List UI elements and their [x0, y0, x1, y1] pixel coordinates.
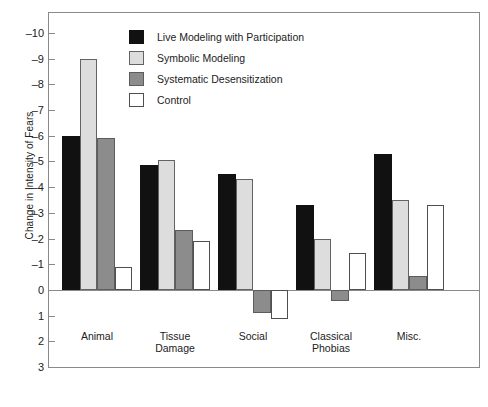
y-tick-mark [48, 316, 55, 317]
medium-gray-swatch-icon [129, 72, 144, 86]
y-tick-label: 0 [10, 284, 44, 296]
bar-classical-phobias-series-3 [349, 253, 367, 290]
legend-item-label: Systematic Desensitization [157, 73, 282, 85]
bar-misc-series-3 [427, 205, 445, 290]
bar-tissue-damage-series-1 [158, 160, 176, 290]
y-tick-label: 1 [10, 310, 44, 322]
bar-tissue-damage-series-0 [140, 165, 158, 290]
y-tick-mark [48, 239, 55, 240]
y-tick-mark [48, 264, 55, 265]
x-axis-category-label: Misc. [397, 330, 422, 343]
y-tick-label: –4 [10, 181, 44, 193]
y-tick-label: 3 [10, 361, 44, 373]
bar-social-series-0 [218, 174, 236, 290]
bar-social-series-1 [236, 179, 254, 289]
light-gray-swatch-icon [129, 51, 144, 65]
y-tick-mark [48, 33, 55, 34]
y-tick-label: –7 [10, 104, 44, 116]
legend-item: Control [129, 89, 304, 110]
x-axis-category-label: Animal [81, 330, 113, 343]
bar-tissue-damage-series-3 [193, 241, 211, 290]
y-tick-mark [48, 213, 55, 214]
legend-item: Systematic Desensitization [129, 68, 304, 89]
x-axis-category-label: Tissue Damage [155, 330, 195, 355]
y-tick-label: –3 [10, 207, 44, 219]
bar-classical-phobias-series-0 [296, 205, 314, 290]
y-tick-mark [48, 161, 55, 162]
bar-animal-series-1 [80, 59, 98, 290]
bar-misc-series-1 [392, 200, 410, 290]
x-axis-category-label: Classical Phobias [310, 330, 352, 355]
bar-chart-figure: Change in Intensity of Fears –10–9–8–7–6… [0, 0, 488, 407]
bar-classical-phobias-series-1 [314, 239, 332, 290]
y-tick-label: –8 [10, 78, 44, 90]
bar-animal-series-0 [62, 136, 80, 290]
y-tick-label: –2 [10, 233, 44, 245]
y-tick-label: –9 [10, 53, 44, 65]
y-tick-label: –10 [10, 27, 44, 39]
legend-item-label: Live Modeling with Participation [157, 31, 304, 43]
y-tick-label: –1 [10, 258, 44, 270]
bar-social-series-3 [271, 290, 289, 320]
bar-classical-phobias-series-2 [331, 290, 349, 302]
white-swatch-icon [129, 93, 144, 107]
x-axis-category-label: Social [239, 330, 268, 343]
legend-item: Symbolic Modeling [129, 47, 304, 68]
bar-social-series-2 [253, 290, 271, 313]
y-axis-tick-labels: –10–9–8–7–6–5–4–3–2–10123 [0, 0, 44, 407]
bar-animal-series-2 [97, 138, 115, 290]
y-tick-label: –5 [10, 155, 44, 167]
y-tick-mark [48, 367, 55, 368]
y-tick-mark [48, 187, 55, 188]
legend-item-label: Symbolic Modeling [157, 52, 245, 64]
y-tick-mark [48, 290, 55, 291]
bar-tissue-damage-series-2 [175, 230, 193, 290]
bar-misc-series-0 [374, 154, 392, 290]
bar-animal-series-3 [115, 267, 133, 290]
y-tick-label: 2 [10, 335, 44, 347]
black-swatch-icon [129, 30, 144, 44]
y-tick-mark [48, 110, 55, 111]
legend-item: Live Modeling with Participation [129, 26, 304, 47]
y-tick-mark [48, 341, 55, 342]
y-tick-mark [48, 84, 55, 85]
y-tick-mark [48, 136, 55, 137]
chart-legend: Live Modeling with ParticipationSymbolic… [129, 26, 304, 110]
y-tick-mark [48, 59, 55, 60]
legend-item-label: Control [157, 94, 191, 106]
bar-misc-series-2 [409, 276, 427, 290]
y-tick-label: –6 [10, 130, 44, 142]
